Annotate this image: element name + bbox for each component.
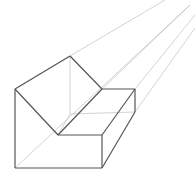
box-edge xyxy=(15,56,70,89)
vanishing-lines xyxy=(15,0,195,168)
box-edge xyxy=(70,56,102,89)
box-edge xyxy=(15,89,58,135)
vanishing-line xyxy=(135,28,195,112)
perspective-drawing xyxy=(0,0,195,181)
vanishing-line xyxy=(135,15,195,89)
box-edge xyxy=(58,89,102,135)
box-edge xyxy=(102,112,135,168)
vanishing-line xyxy=(70,0,165,56)
